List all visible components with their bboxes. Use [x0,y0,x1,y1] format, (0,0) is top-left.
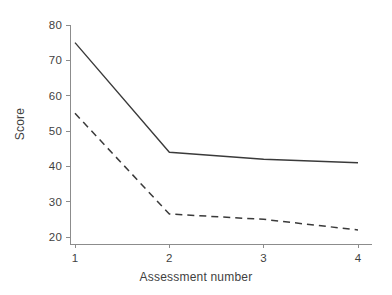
x-axis-title: Assessment number [0,270,392,284]
x-tick-label: 4 [355,252,362,264]
y-tick-label: 60 [30,90,62,102]
y-tick-label: 30 [30,196,62,208]
x-tick-label: 3 [260,252,267,264]
axes [70,25,372,244]
y-tick-label: 50 [30,125,62,137]
tick-marks [66,25,358,248]
x-tick-label: 2 [166,252,173,264]
y-tick-label: 20 [30,231,62,243]
y-axis-title: Score [13,84,27,164]
y-tick-label: 40 [30,160,62,172]
series-line-solid-series [75,43,358,163]
y-tick-label: 80 [30,19,62,31]
plot-area [0,0,392,295]
data-series [75,43,358,230]
series-line-dashed-series [75,113,358,230]
y-tick-label: 70 [30,54,62,66]
line-chart: 20304050607080 1234 Assessment number Sc… [0,0,392,295]
x-tick-label: 1 [72,252,79,264]
